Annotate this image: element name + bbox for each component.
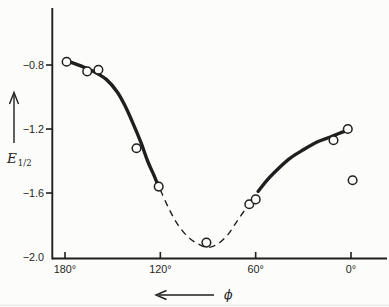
data-point	[202, 238, 211, 247]
x-tick-label: 120°	[149, 263, 171, 275]
y-tick-label: −1.2	[23, 123, 44, 135]
figure: −0.8−1.2−1.6−2.0 180°120°60°0° E1/2 ϕ	[0, 0, 389, 307]
scan-edge-artifact	[0, 305, 389, 306]
data-point	[94, 66, 103, 75]
data-point	[132, 144, 141, 153]
data-point	[154, 182, 163, 191]
data-point	[329, 136, 338, 145]
y-tick-label: −1.6	[23, 187, 44, 199]
x-axis-label: ϕ	[224, 287, 233, 302]
x-tick-label: 0°	[346, 263, 356, 275]
fitted-curves	[70, 62, 346, 248]
y-tick-label: −2.0	[23, 251, 44, 263]
x-axis-ticks: 180°120°60°0°	[54, 252, 356, 275]
data-point	[344, 125, 353, 134]
chart-canvas: −0.8−1.2−1.6−2.0 180°120°60°0° E1/2 ϕ	[0, 0, 389, 307]
data-point	[348, 176, 357, 185]
y-axis-label: E1/2	[6, 150, 32, 168]
data-point	[251, 195, 260, 204]
y-tick-label: −0.8	[23, 59, 44, 71]
curve-solid	[70, 62, 159, 187]
x-tick-label: 180°	[54, 263, 76, 275]
data-point	[62, 58, 71, 67]
data-points	[62, 58, 357, 247]
x-axis-annotation: ϕ	[156, 287, 233, 302]
data-point	[83, 67, 92, 76]
x-tick-label: 60°	[248, 263, 264, 275]
